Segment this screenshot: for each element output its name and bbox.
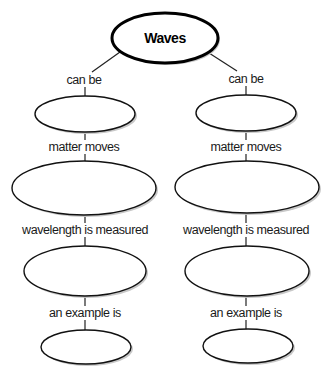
right-link-example: an example is: [209, 306, 283, 320]
edge-root-to-right-link: [209, 53, 237, 71]
right-link-wavelength: wavelength is measured: [182, 223, 310, 237]
right-link-matter-moves: matter moves: [210, 140, 283, 154]
left-node-1: [35, 96, 135, 132]
edge-root-to-left-link: [92, 52, 120, 72]
left-link-example: an example is: [48, 306, 122, 320]
left-link-wavelength: wavelength is measured: [21, 223, 149, 237]
right-link-can-be: can be: [227, 72, 264, 86]
right-node-4: [203, 329, 293, 363]
right-node-1: [196, 95, 296, 131]
root-label: Waves: [144, 30, 185, 46]
right-node-3: [185, 246, 309, 296]
right-node-2: [175, 161, 319, 213]
concept-map-canvas: [0, 0, 330, 378]
left-link-matter-moves: matter moves: [48, 140, 121, 154]
left-node-3: [24, 246, 146, 296]
left-node-2: [12, 161, 156, 215]
left-link-can-be: can be: [65, 73, 102, 87]
left-node-4: [41, 330, 131, 364]
